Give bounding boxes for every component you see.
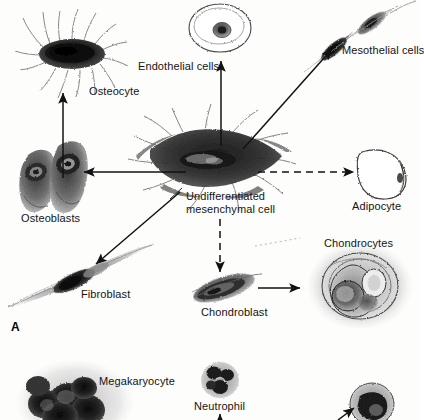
endothelial-cell-illustration — [189, 4, 251, 52]
arrow-to-mesothelial-cells — [243, 49, 332, 149]
label-chondroblast: Chondroblast — [201, 306, 268, 318]
chondrocytes-illustration: . . . . . . . . . — [308, 243, 412, 329]
label-osteoblasts: Osteoblasts — [21, 212, 80, 224]
label-mesenchymal-line1: Undifferentiated — [186, 190, 265, 202]
label-mesothelial-cells: Mesothelial cells — [342, 44, 424, 56]
label-adipocyte: Adipocyte — [352, 200, 401, 212]
arrow-to-monocyte — [338, 408, 354, 420]
label-megakaryocyte: Megakaryocyte — [99, 375, 175, 387]
leader-line-chondrocytes-label — [255, 238, 300, 246]
megakaryocyte-illustration — [17, 360, 133, 420]
adipocyte-illustration — [357, 150, 406, 199]
label-chondrocytes: Chondrocytes — [324, 237, 393, 249]
monocyte-illustration — [350, 383, 394, 420]
arrow-to-fibroblast — [96, 192, 180, 264]
chondroblast-illustration — [190, 268, 262, 309]
label-neutrophil: Neutrophil — [194, 400, 245, 412]
panel-letter-a: A — [11, 320, 20, 334]
artist-signature: . . . . . . . . . — [336, 316, 356, 321]
label-fibroblast: Fibroblast — [81, 288, 130, 300]
label-osteocyte: Osteocyte — [89, 85, 139, 97]
label-endothelial-cells: Endothelial cells — [138, 60, 219, 72]
label-mesenchymal-line2: mesenchymal cell — [186, 203, 275, 215]
neutrophil-illustration — [201, 362, 239, 398]
osteoblasts-illustration — [19, 141, 87, 213]
label-undifferentiated-mesenchymal-cell: Undifferentiated mesenchymal cell — [186, 190, 290, 215]
